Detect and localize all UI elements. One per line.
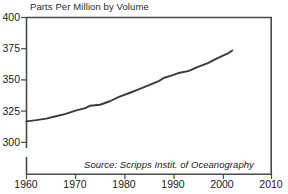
plot-area	[0, 0, 288, 194]
y-axis-tick-marks	[21, 18, 26, 143]
co2-line-chart: Parts Per Million by Volume 400 375 350 …	[0, 0, 288, 194]
data-line-co2	[27, 51, 233, 122]
